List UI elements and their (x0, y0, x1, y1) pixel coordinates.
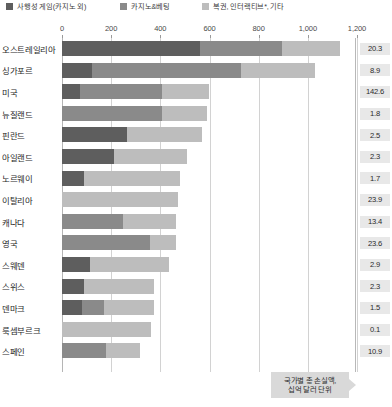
category-label: 캐나다 (2, 216, 25, 228)
legend-swatch-icon (202, 3, 209, 10)
bar-segment-1 (80, 84, 162, 99)
legend-label: 사행성 게임(카지노 외) (17, 2, 86, 11)
x-axis-tick-label: 0 (60, 24, 64, 33)
bar-segment-0 (62, 127, 127, 142)
stacked-bar (62, 127, 202, 142)
bar-segment-2 (162, 84, 209, 99)
bar-segment-2 (127, 127, 202, 142)
row-value: 23.9 (360, 194, 390, 206)
stacked-bar-chart: 사행성 게임(카지노 외)카지노&베팅복권, 인터랙티브*, 기타 020040… (0, 0, 392, 407)
bar-segment-2 (162, 106, 207, 121)
x-axis-tick-label: 1,200 (348, 24, 366, 33)
bar-segment-2 (106, 343, 140, 358)
category-label: 노르웨이 (2, 172, 33, 184)
bar-segment-0 (62, 63, 92, 78)
bar-segment-2 (104, 300, 154, 315)
bar-segment-0 (62, 41, 200, 56)
stacked-bar (62, 41, 340, 56)
row-value: 142.6 (360, 86, 390, 98)
chart-row: 스웨덴2.9 (0, 254, 392, 276)
bar-segment-2 (62, 322, 151, 337)
category-label: 핀란드 (2, 129, 25, 141)
bar-segment-1 (92, 63, 241, 78)
row-value: 20.3 (360, 43, 390, 55)
stacked-bar (62, 343, 140, 358)
row-value: 10.9 (360, 345, 390, 357)
bar-segment-0 (62, 149, 114, 164)
chart-row: 노르웨이1.7 (0, 168, 392, 190)
chart-legend: 사행성 게임(카지노 외)카지노&베팅복권, 인터랙티브*, 기타 (0, 2, 392, 18)
category-label: 스위스 (2, 280, 25, 292)
category-label: 오스트레일리아 (2, 43, 56, 55)
x-axis-tick-label: 600 (203, 24, 215, 33)
stacked-bar (62, 106, 207, 121)
chart-row: 덴마크1.5 (0, 297, 392, 319)
legend-item-2: 복권, 인터랙티브*, 기타 (202, 2, 284, 11)
category-label: 아일랜드 (2, 151, 33, 163)
bar-segment-1 (62, 214, 123, 229)
chart-row: 이탈리아23.9 (0, 189, 392, 211)
stacked-bar (62, 322, 151, 337)
row-value: 2.3 (360, 151, 390, 163)
stacked-bar (62, 300, 154, 315)
row-value: 1.5 (360, 302, 390, 314)
chart-row: 스페인10.9 (0, 340, 392, 362)
category-label: 룩셈부르크 (2, 324, 40, 336)
bar-segment-2 (241, 63, 315, 78)
chart-row: 오스트레일리아20.3 (0, 38, 392, 60)
chart-row: 아일랜드2.3 (0, 146, 392, 168)
bar-segment-2 (84, 279, 154, 294)
legend-swatch-icon (6, 3, 13, 10)
row-value: 8.9 (360, 64, 390, 76)
stacked-bar (62, 214, 176, 229)
category-label: 미국 (2, 86, 17, 98)
chart-row: 룩셈부르크0.1 (0, 319, 392, 341)
bar-segment-2 (62, 192, 178, 207)
callout-arrow-icon (349, 379, 356, 391)
legend-item-0: 사행성 게임(카지노 외) (6, 2, 86, 11)
stacked-bar (62, 63, 315, 78)
bar-segment-1 (62, 106, 162, 121)
bar-segment-1 (62, 235, 150, 250)
bar-segment-0 (62, 300, 82, 315)
category-label: 이탈리아 (2, 194, 33, 206)
bar-segment-2 (150, 235, 177, 250)
stacked-bar (62, 192, 178, 207)
category-label: 뉴질랜드 (2, 108, 33, 120)
bar-segment-1 (82, 300, 104, 315)
bar-segment-1 (62, 343, 106, 358)
x-axis-tick-label: 400 (154, 24, 166, 33)
category-label: 스페인 (2, 345, 25, 357)
x-axis-tick-label: 1,000 (299, 24, 317, 33)
callout-line-1: 국가별 총 손실액, (284, 376, 336, 386)
bar-segment-0 (62, 171, 84, 186)
stacked-bar (62, 235, 176, 250)
bar-segment-2 (282, 41, 340, 56)
chart-row: 캐나다13.4 (0, 211, 392, 233)
legend-item-1: 카지노&베팅 (120, 2, 170, 11)
bar-segment-2 (123, 214, 176, 229)
chart-row: 핀란드2.5 (0, 124, 392, 146)
category-label: 영국 (2, 237, 17, 249)
bar-segment-1 (200, 41, 282, 56)
callout-line-2: 십억 달러 단위 (288, 385, 332, 395)
row-value: 2.3 (360, 280, 390, 292)
bar-segment-2 (84, 171, 180, 186)
value-column-callout: 국가별 총 손실액, 십억 달러 단위 (271, 372, 349, 398)
x-axis-tick-label: 200 (105, 24, 117, 33)
row-value: 2.5 (360, 129, 390, 141)
legend-label: 카지노&베팅 (131, 2, 170, 11)
stacked-bar (62, 279, 154, 294)
stacked-bar (62, 149, 187, 164)
stacked-bar (62, 84, 210, 99)
bar-segment-0 (62, 257, 90, 272)
stacked-bar (62, 257, 169, 272)
category-label: 싱가포르 (2, 64, 33, 76)
bar-segment-0 (62, 279, 84, 294)
category-label: 덴마크 (2, 302, 25, 314)
chart-row: 미국142.6 (0, 81, 392, 103)
stacked-bar (62, 171, 180, 186)
bar-segment-0 (62, 84, 80, 99)
chart-row: 싱가포르8.9 (0, 60, 392, 82)
row-value: 23.6 (360, 237, 390, 249)
